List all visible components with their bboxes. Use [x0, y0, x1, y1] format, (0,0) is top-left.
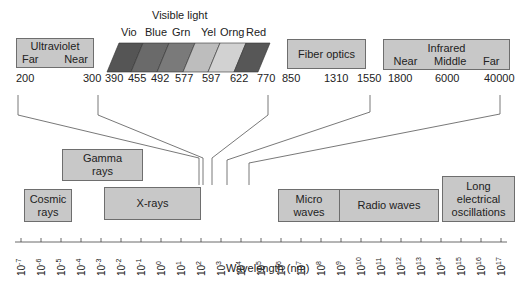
cosmic-label-1: Cosmic	[30, 193, 67, 206]
x-rays-box: X-rays	[104, 187, 201, 220]
ultraviolet-title: Ultraviolet	[31, 40, 80, 53]
axis-tick-label: 10-4	[75, 259, 87, 276]
ir-40000: 40000	[484, 72, 515, 84]
fiber-1310: 1310	[324, 72, 348, 84]
uv-end: 300	[83, 72, 101, 84]
long-electrical-oscillations-box: Long electrical oscillations	[442, 176, 515, 222]
vis-390: 390	[105, 72, 123, 84]
long-label-2: electrical	[457, 193, 500, 206]
infrared-far: Far	[483, 55, 500, 68]
ultraviolet-near: Near	[64, 53, 88, 66]
axis-tick-label: 1014	[435, 257, 447, 276]
axis-ticks	[21, 238, 501, 242]
x-rays-label: X-rays	[137, 197, 169, 210]
ultraviolet-box: Ultraviolet Far Near	[16, 38, 94, 68]
ir-6000: 6000	[435, 72, 459, 84]
axis-tick-label: 102	[195, 261, 207, 276]
axis-tick-label: 101	[175, 261, 187, 276]
vis-770: 770	[257, 72, 275, 84]
infrared-near: Near	[394, 55, 418, 68]
vis-455: 455	[128, 72, 146, 84]
axis-label: Wavelength (nm)	[226, 262, 309, 274]
axis-tick-label: 1016	[475, 257, 487, 276]
visible-light-band	[107, 43, 270, 72]
infrared-title: Infrared	[428, 42, 466, 55]
vis-622: 622	[230, 72, 248, 84]
axis-tick-label: 10-5	[55, 259, 67, 276]
uv-start: 200	[16, 72, 34, 84]
axis-tick-label: 1017	[495, 257, 507, 276]
axis-tick-label: 10-6	[35, 259, 47, 276]
gamma-label-2: rays	[92, 165, 113, 178]
axis-tick-label: 10-7	[15, 259, 27, 276]
axis-tick-label: 1015	[455, 257, 467, 276]
fiber-optics-title: Fiber optics	[298, 48, 355, 61]
axis-tick-label: 1010	[355, 257, 367, 276]
fiber-1550: 1550	[357, 72, 381, 84]
long-label-1: Long	[466, 180, 490, 193]
axis-tick-label: 10-3	[95, 259, 107, 276]
axis-tick-label: 10-2	[115, 259, 127, 276]
long-label-3: oscillations	[452, 206, 506, 219]
ir-1800: 1800	[388, 72, 412, 84]
vis-492: 492	[151, 72, 169, 84]
ultraviolet-far: Far	[22, 53, 39, 66]
axis-tick-label: 10-1	[135, 259, 147, 276]
vis-577: 577	[175, 72, 193, 84]
axis-tick-label: 109	[335, 261, 347, 276]
gamma-label-1: Gamma	[83, 152, 122, 165]
infrared-box: Infrared Near Middle Far	[383, 39, 510, 70]
axis-tick-label: 1012	[395, 257, 407, 276]
radio-label: Radio waves	[358, 199, 421, 212]
micro-label-2: waves	[293, 206, 324, 219]
axis-tick-label: 100	[155, 261, 167, 276]
fiber-optics-box: Fiber optics	[287, 39, 366, 69]
cosmic-rays-box: Cosmic rays	[24, 189, 72, 222]
fiber-850: 850	[282, 72, 300, 84]
axis-tick-label: 1013	[415, 257, 427, 276]
micro-waves-box: Micro waves	[278, 189, 340, 222]
axis-tick-label: 1011	[375, 258, 387, 276]
axis-tick-label: 108	[315, 261, 327, 276]
infrared-middle: Middle	[434, 55, 466, 68]
radio-waves-box: Radio waves	[339, 189, 439, 222]
cosmic-label-2: rays	[38, 206, 59, 219]
vis-597: 597	[202, 72, 220, 84]
micro-label-1: Micro	[296, 193, 323, 206]
gamma-rays-box: Gamma rays	[62, 149, 143, 181]
